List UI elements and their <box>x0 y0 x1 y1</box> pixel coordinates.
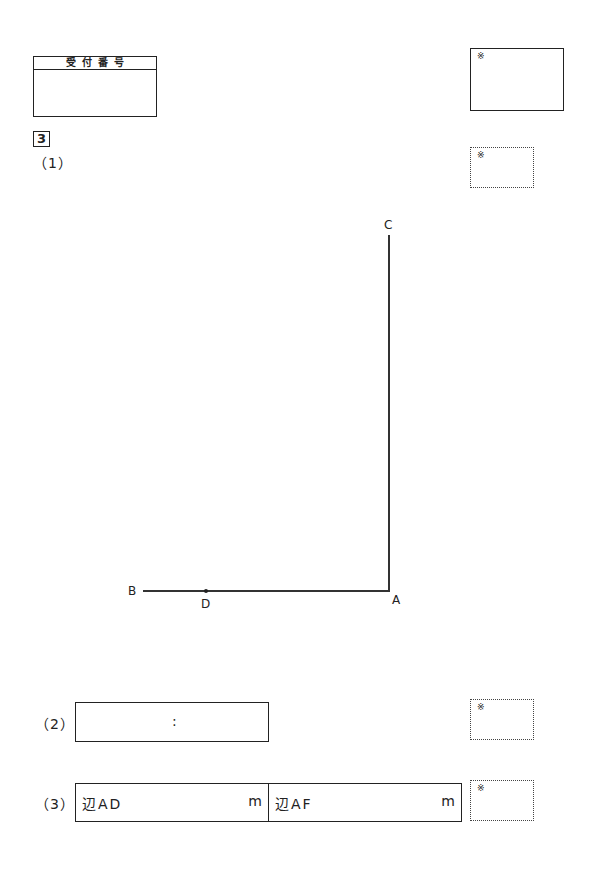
side-af-label: 辺AF <box>275 793 313 813</box>
point-d-dot <box>204 589 208 593</box>
part-3-label: （3） <box>35 793 75 813</box>
reception-number-header: 受付番号 <box>34 57 156 70</box>
part-1-score-box[interactable]: ※ <box>470 147 534 188</box>
score-mark-icon: ※ <box>477 783 485 793</box>
part-2-answer-box[interactable]: : <box>75 702 269 742</box>
side-af-field[interactable]: 辺AF m <box>269 784 461 821</box>
side-af-unit: m <box>441 793 455 809</box>
score-mark-icon: ※ <box>477 150 485 160</box>
part-3-score-box[interactable]: ※ <box>470 780 534 821</box>
reception-number-field[interactable] <box>34 70 156 116</box>
side-ad-unit: m <box>248 793 262 809</box>
side-ad-label: 辺AD <box>82 793 122 813</box>
part-1-label: （1） <box>33 152 73 172</box>
point-b-label: B <box>128 584 136 598</box>
side-ad-field[interactable]: 辺AD m <box>76 784 269 821</box>
score-mark-icon: ※ <box>477 702 485 712</box>
point-d-label: D <box>201 597 210 611</box>
part-2-score-box[interactable]: ※ <box>470 699 534 740</box>
point-c-label: C <box>384 218 392 232</box>
segment-ac <box>388 235 390 592</box>
point-a-label: A <box>392 593 400 607</box>
question-number: 3 <box>33 131 50 147</box>
score-mark-icon: ※ <box>477 51 485 61</box>
part-3-answer-box: 辺AD m 辺AF m <box>75 783 462 822</box>
reception-number-box: 受付番号 <box>33 56 157 117</box>
total-score-box[interactable]: ※ <box>470 48 564 111</box>
segment-ba <box>143 590 390 592</box>
ratio-separator: : <box>172 713 177 729</box>
part-2-label: （2） <box>35 713 75 733</box>
